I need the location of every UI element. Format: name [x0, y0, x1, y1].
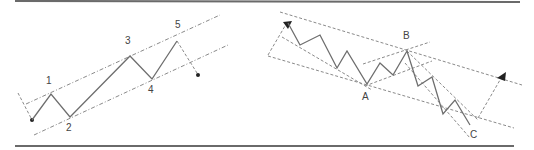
post-wave-5-projection: [177, 41, 197, 73]
wave-label-5: 5: [175, 19, 181, 30]
outer-lower-channel: [268, 56, 514, 128]
impulse-wave-panel: 1 2 3 4 5: [18, 15, 228, 135]
wave-label-3: 3: [125, 35, 131, 46]
exit-arrowhead-icon: [497, 72, 506, 81]
corrective-wave-line: [288, 23, 470, 125]
wave-label-1: 1: [46, 75, 52, 86]
wave-label-b: B: [403, 30, 410, 41]
impulse-wave-line: [32, 41, 177, 120]
leg-b-upper-channel: [363, 42, 430, 64]
exit-arrow-line: [478, 80, 500, 118]
entry-arrow-line: [18, 93, 31, 118]
lower-channel-line: [34, 45, 228, 135]
projection-end-dot: [196, 73, 200, 77]
wave-label-c: C: [470, 129, 477, 140]
entry-arrow-line: [268, 26, 285, 55]
wave-label-4: 4: [148, 84, 154, 95]
wave-label-a: A: [362, 91, 369, 102]
top-rule: [15, 1, 520, 2]
corrective-wave-panel: A B C: [268, 12, 522, 140]
leg-a-inner-channel: [282, 37, 372, 90]
outer-upper-channel: [280, 12, 522, 85]
upper-channel-line: [26, 15, 220, 104]
elliott-wave-figure: 1 2 3 4 5 A B C: [0, 0, 534, 150]
wave-label-2: 2: [66, 122, 72, 133]
